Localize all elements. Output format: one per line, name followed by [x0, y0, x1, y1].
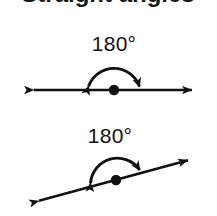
angle-label-horizontal: 180° — [92, 32, 137, 55]
vertex-dot-horizontal — [109, 85, 119, 95]
straight-angles-figure: Straight angles 180° 180° — [0, 0, 217, 216]
clipped-heading-text: Straight angles — [21, 0, 194, 7]
clipped-heading: Straight angles — [21, 0, 194, 7]
figure-root: Straight angles 180° 180° — [0, 0, 217, 216]
angle-label-slanted: 180° — [88, 124, 133, 147]
vertex-dot-slanted — [111, 175, 121, 185]
